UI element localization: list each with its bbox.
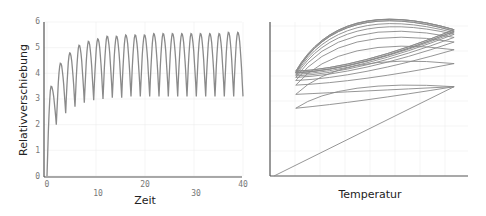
xtick-40: 40 [238, 180, 248, 189]
right-grid [270, 22, 468, 176]
ytick-6: 6 [35, 17, 40, 26]
hysteresis-series [274, 19, 454, 176]
left-chart: 0 1 2 3 4 5 6 0 20 40 10 30 Zeit Relativ… [17, 17, 248, 207]
left-x-label: Zeit [134, 194, 156, 207]
ytick-0: 0 [35, 172, 40, 181]
xtick-20: 20 [140, 180, 150, 189]
xtick-10: 10 [93, 189, 103, 198]
right-chart: Temperatur [270, 19, 468, 201]
left-y-label: Relativverschiebung [17, 44, 30, 156]
right-x-label: Temperatur [337, 188, 402, 201]
ytick-1: 1 [35, 146, 40, 155]
xtick-30: 30 [191, 189, 201, 198]
xtick-0: 0 [45, 180, 50, 189]
ytick-3: 3 [35, 94, 40, 103]
ytick-4: 4 [35, 69, 40, 78]
figure: 0 1 2 3 4 5 6 0 20 40 10 30 Zeit Relativ… [0, 0, 486, 216]
ytick-2: 2 [35, 120, 40, 129]
ytick-5: 5 [35, 43, 40, 52]
left-y-ticks: 0 1 2 3 4 5 6 [35, 17, 40, 181]
